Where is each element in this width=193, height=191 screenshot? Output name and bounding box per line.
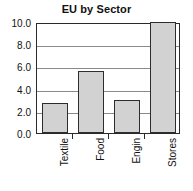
bar-textile xyxy=(42,103,67,133)
y-axis-tick-labels: 0.02.04.06.08.010.0 xyxy=(0,23,34,134)
x-axis-tick-label: Textile xyxy=(59,138,70,166)
y-axis-tick-label: 4.0 xyxy=(17,84,31,95)
plot-area xyxy=(36,23,180,134)
x-axis-tick-label: Food xyxy=(95,138,106,161)
bars-layer xyxy=(37,24,179,133)
chart-title: EU by Sector xyxy=(0,3,193,15)
x-axis-tick-label: Stores xyxy=(167,138,178,167)
x-axis-tick-labels: TextileFoodEnginStores xyxy=(36,136,180,191)
y-axis-tick-label: 0.0 xyxy=(17,129,31,140)
bar-engin xyxy=(114,100,139,133)
bar-food xyxy=(78,71,103,133)
bar-stores xyxy=(150,22,175,133)
y-axis-tick-label: 10.0 xyxy=(12,18,31,29)
y-axis-tick-label: 6.0 xyxy=(17,62,31,73)
bar-chart: EU by Sector 0.02.04.06.08.010.0 Textile… xyxy=(0,0,193,191)
x-axis-tick-label: Engin xyxy=(131,138,142,164)
y-axis-tick-label: 8.0 xyxy=(17,40,31,51)
y-axis-tick-label: 2.0 xyxy=(17,106,31,117)
